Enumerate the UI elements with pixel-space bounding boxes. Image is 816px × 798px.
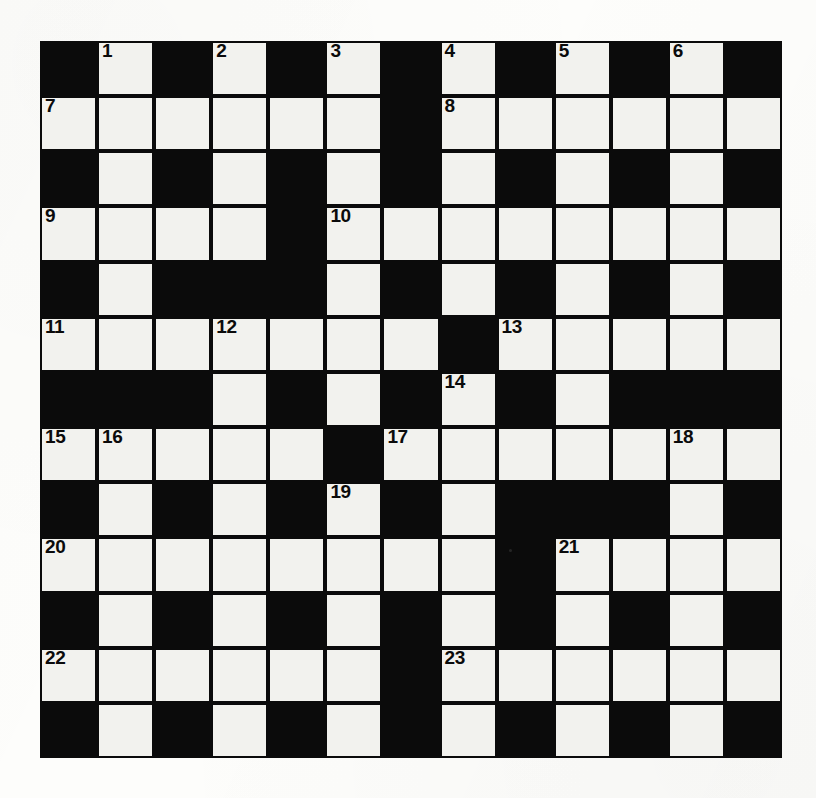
grid-cell-open[interactable] (725, 427, 782, 482)
grid-cell-open[interactable] (725, 537, 782, 592)
grid-cell-open[interactable] (554, 206, 611, 261)
grid-cell-open[interactable] (154, 96, 211, 151)
grid-cell-open[interactable] (211, 703, 268, 758)
grid-cell-open[interactable] (154, 317, 211, 372)
grid-cell-open[interactable]: 5 (554, 41, 611, 96)
grid-cell-open[interactable] (154, 427, 211, 482)
grid-cell-open[interactable] (554, 96, 611, 151)
grid-cell-open[interactable] (611, 648, 668, 703)
grid-cell-open[interactable] (554, 151, 611, 206)
grid-cell-open[interactable] (668, 482, 725, 537)
grid-cell-open[interactable] (725, 317, 782, 372)
grid-cell-open[interactable] (668, 593, 725, 648)
grid-cell-open[interactable] (97, 648, 154, 703)
grid-cell-open[interactable] (211, 537, 268, 592)
grid-cell-open[interactable] (725, 648, 782, 703)
grid-cell-open[interactable]: 12 (211, 317, 268, 372)
grid-cell-open[interactable] (325, 648, 382, 703)
grid-cell-open[interactable] (554, 427, 611, 482)
grid-cell-open[interactable] (325, 96, 382, 151)
grid-cell-open[interactable] (211, 648, 268, 703)
grid-cell-open[interactable] (668, 96, 725, 151)
grid-cell-open[interactable] (440, 427, 497, 482)
grid-cell-open[interactable] (668, 206, 725, 261)
grid-cell-open[interactable]: 18 (668, 427, 725, 482)
grid-cell-open[interactable] (668, 151, 725, 206)
grid-cell-open[interactable] (611, 537, 668, 592)
grid-cell-open[interactable] (440, 206, 497, 261)
grid-cell-open[interactable] (325, 593, 382, 648)
grid-cell-open[interactable] (268, 317, 325, 372)
grid-cell-open[interactable] (668, 648, 725, 703)
grid-cell-open[interactable] (154, 206, 211, 261)
grid-cell-open[interactable]: 21 (554, 537, 611, 592)
grid-cell-open[interactable] (211, 593, 268, 648)
grid-cell-open[interactable] (325, 703, 382, 758)
grid-cell-open[interactable] (97, 96, 154, 151)
grid-cell-open[interactable] (440, 262, 497, 317)
grid-cell-open[interactable] (611, 317, 668, 372)
grid-cell-open[interactable] (611, 96, 668, 151)
grid-cell-open[interactable] (554, 593, 611, 648)
grid-cell-open[interactable] (325, 317, 382, 372)
grid-cell-open[interactable] (97, 482, 154, 537)
grid-cell-open[interactable] (211, 372, 268, 427)
grid-cell-open[interactable] (211, 96, 268, 151)
grid-cell-open[interactable]: 3 (325, 41, 382, 96)
grid-cell-open[interactable] (554, 703, 611, 758)
grid-cell-open[interactable] (268, 96, 325, 151)
grid-cell-open[interactable] (668, 262, 725, 317)
grid-cell-open[interactable] (268, 427, 325, 482)
grid-cell-open[interactable] (668, 317, 725, 372)
grid-cell-open[interactable] (497, 648, 554, 703)
grid-cell-open[interactable] (554, 648, 611, 703)
grid-cell-open[interactable] (611, 206, 668, 261)
grid-cell-open[interactable] (97, 262, 154, 317)
grid-cell-open[interactable] (440, 593, 497, 648)
grid-cell-open[interactable] (211, 482, 268, 537)
grid-cell-open[interactable]: 10 (325, 206, 382, 261)
grid-cell-open[interactable] (211, 206, 268, 261)
grid-cell-open[interactable] (497, 206, 554, 261)
grid-cell-open[interactable] (211, 427, 268, 482)
grid-cell-open[interactable] (611, 427, 668, 482)
grid-cell-open[interactable]: 1 (97, 41, 154, 96)
grid-cell-open[interactable] (668, 703, 725, 758)
grid-cell-open[interactable] (554, 262, 611, 317)
grid-cell-open[interactable]: 19 (325, 482, 382, 537)
grid-cell-open[interactable]: 6 (668, 41, 725, 96)
grid-cell-open[interactable] (382, 537, 439, 592)
grid-cell-open[interactable] (97, 593, 154, 648)
grid-cell-open[interactable]: 9 (40, 206, 97, 261)
grid-cell-open[interactable] (211, 151, 268, 206)
grid-cell-open[interactable]: 20 (40, 537, 97, 592)
grid-cell-open[interactable] (97, 206, 154, 261)
grid-cell-open[interactable] (554, 317, 611, 372)
grid-cell-open[interactable]: 8 (440, 96, 497, 151)
grid-cell-open[interactable]: 13 (497, 317, 554, 372)
grid-cell-open[interactable] (325, 151, 382, 206)
grid-cell-open[interactable] (725, 206, 782, 261)
grid-cell-open[interactable]: 23 (440, 648, 497, 703)
grid-cell-open[interactable] (725, 96, 782, 151)
grid-cell-open[interactable] (268, 537, 325, 592)
grid-cell-open[interactable] (97, 537, 154, 592)
grid-cell-open[interactable] (97, 151, 154, 206)
grid-cell-open[interactable] (382, 317, 439, 372)
grid-cell-open[interactable] (268, 648, 325, 703)
grid-cell-open[interactable]: 22 (40, 648, 97, 703)
grid-cell-open[interactable]: 2 (211, 41, 268, 96)
grid-cell-open[interactable]: 4 (440, 41, 497, 96)
grid-cell-open[interactable] (668, 537, 725, 592)
grid-cell-open[interactable]: 16 (97, 427, 154, 482)
grid-cell-open[interactable] (440, 151, 497, 206)
grid-cell-open[interactable]: 17 (382, 427, 439, 482)
grid-cell-open[interactable] (97, 703, 154, 758)
grid-cell-open[interactable] (325, 537, 382, 592)
grid-cell-open[interactable] (497, 96, 554, 151)
crossword-grid[interactable]: 1234567891011121314151617181920212223 (40, 41, 782, 758)
grid-cell-open[interactable] (325, 262, 382, 317)
grid-cell-open[interactable] (154, 537, 211, 592)
grid-cell-open[interactable] (440, 703, 497, 758)
grid-cell-open[interactable]: 14 (440, 372, 497, 427)
